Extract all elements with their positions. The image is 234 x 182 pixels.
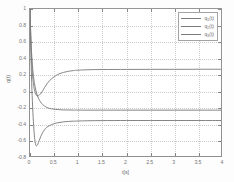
- figure-canvas: q1(t) q2(t) q3(t) 00.511.522.533.54 10.8…: [0, 0, 234, 182]
- x-tick-label: 3.5: [194, 159, 201, 165]
- y-tick-label: -0.8: [7, 154, 26, 160]
- x-tick-label: 0: [28, 159, 31, 165]
- legend-swatch-q1: [181, 18, 201, 19]
- y-tick-label: -0.4: [7, 121, 26, 127]
- legend-label-q1: q1(t): [204, 15, 214, 23]
- legend-label-q3: q3(t): [204, 31, 214, 39]
- x-axis-label: t[s]: [29, 169, 222, 175]
- x-tick-label: 2: [124, 159, 127, 165]
- legend-label-q2: q2(t): [204, 23, 214, 31]
- y-axis-label: q(t): [5, 67, 11, 91]
- y-tick-label: 0.4: [7, 55, 26, 61]
- legend[interactable]: q1(t) q2(t) q3(t): [178, 12, 218, 41]
- y-tick-label: 1: [7, 5, 26, 11]
- x-tick-label: 1: [76, 159, 79, 165]
- y-tick-label: -0.6: [7, 137, 26, 143]
- x-tick-label: 1.5: [98, 159, 105, 165]
- plot-area: q1(t) q2(t) q3(t): [29, 8, 222, 157]
- y-tick-label: -0.2: [7, 104, 26, 110]
- legend-item-q1[interactable]: q1(t): [181, 15, 214, 22]
- legend-swatch-q2: [181, 26, 201, 27]
- legend-item-q2[interactable]: q2(t): [181, 23, 214, 30]
- x-tick-label: 0.5: [50, 159, 57, 165]
- legend-swatch-q3: [181, 34, 201, 35]
- x-tick-label: 2.5: [146, 159, 153, 165]
- legend-item-q3[interactable]: q3(t): [181, 31, 214, 38]
- x-tick-label: 4: [221, 159, 224, 165]
- y-tick-label: 0.8: [7, 22, 26, 28]
- y-tick-label: 0.6: [7, 38, 26, 44]
- x-tick-label: 3: [172, 159, 175, 165]
